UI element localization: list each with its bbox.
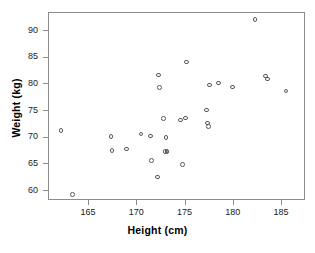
y-axis-title: Weight (kg) — [10, 48, 22, 168]
x-tick-label: 170 — [129, 207, 144, 217]
x-tick-mark — [185, 200, 186, 205]
x-tick-mark — [136, 200, 137, 205]
x-tick-label: 180 — [225, 207, 240, 217]
x-tick-label: 165 — [80, 207, 95, 217]
x-tick-mark — [281, 200, 282, 205]
x-tick-mark — [233, 200, 234, 205]
x-tick-mark — [88, 200, 89, 205]
x-tick-label: 185 — [273, 207, 288, 217]
x-axis-ticks: 165170175180185 — [0, 0, 315, 253]
x-tick-label: 175 — [177, 207, 192, 217]
x-axis-title: Height (cm) — [0, 224, 315, 236]
scatter-plot-figure: 60657075808590 165170175180185 Height (c… — [0, 0, 315, 253]
